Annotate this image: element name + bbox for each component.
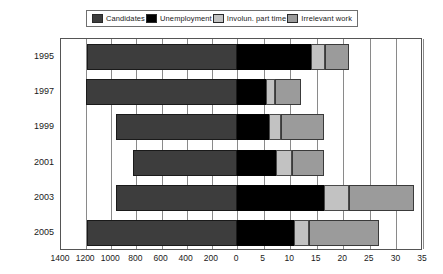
bar-segment-unemployment <box>237 114 269 140</box>
bar-segment-candidates <box>87 44 237 70</box>
legend-label-involun-part-time: Involun. part time <box>227 15 286 23</box>
bar-segment-candidates <box>86 79 237 105</box>
gridline-left-1200 <box>86 39 87 249</box>
bar-segment-involun <box>324 185 349 211</box>
legend-swatch-icon-irrelevant-work <box>287 14 298 23</box>
bar-segment-unemployment <box>237 185 324 211</box>
bar-segment-irrelevant <box>281 114 324 140</box>
gridline-right-5 <box>264 39 265 249</box>
bar-segment-irrelevant <box>349 185 414 211</box>
legend-item-involun-part-time: Involun. part time <box>213 14 286 23</box>
bar-segment-unemployment <box>237 150 276 176</box>
legend-item-unemployment: Unemployment <box>146 14 212 23</box>
bar-segment-irrelevant <box>309 220 380 246</box>
y-axis-label-1999: 1999 <box>14 121 54 131</box>
y-axis-label-2003: 2003 <box>14 192 54 202</box>
x-axis-label-35: 35 <box>405 253 439 263</box>
bar-segment-involun <box>276 150 292 176</box>
gridline-left-400 <box>187 39 188 249</box>
bar-row <box>61 44 421 70</box>
gridline-left-1000 <box>111 39 112 249</box>
gridline-left-0 <box>237 39 238 249</box>
bar-segment-unemployment <box>237 79 266 105</box>
gridline-right-25 <box>370 39 371 249</box>
y-axis-label-1995: 1995 <box>14 51 54 61</box>
legend-item-irrelevant-work: Irrelevant work <box>287 14 352 23</box>
legend-item-candidates: Candidates <box>92 14 145 23</box>
legend-swatch-icon-unemployment <box>146 14 157 23</box>
gridline-right-30 <box>396 39 397 249</box>
y-axis-label-2001: 2001 <box>14 157 54 167</box>
gridline-right-15 <box>317 39 318 249</box>
chart-container: Candidates Unemployment Involun. part ti… <box>0 0 443 274</box>
bar-segment-candidates <box>116 185 237 211</box>
gridline-right-20 <box>343 39 344 249</box>
y-axis-label-1997: 1997 <box>14 86 54 96</box>
bar-segment-involun <box>311 44 325 70</box>
gridline-left-600 <box>162 39 163 249</box>
bar-segment-candidates <box>133 150 237 176</box>
bar-segment-involun <box>269 114 281 140</box>
chart-legend: Candidates Unemployment Involun. part ti… <box>86 10 358 27</box>
bar-segment-unemployment <box>237 44 311 70</box>
legend-label-irrelevant-work: Irrelevant work <box>301 15 352 23</box>
y-axis-label-2005: 2005 <box>14 227 54 237</box>
legend-swatch-icon-involun-part-time <box>213 14 224 23</box>
bar-segment-irrelevant <box>292 150 324 176</box>
bar-segment-candidates <box>87 220 237 246</box>
gridline-right-35 <box>423 39 424 249</box>
legend-label-unemployment: Unemployment <box>160 15 212 23</box>
bar-segment-unemployment <box>237 220 294 246</box>
bar-segment-involun <box>266 79 275 105</box>
bar-segment-candidates <box>116 114 237 140</box>
gridline-right-10 <box>290 39 291 249</box>
legend-swatch-icon-candidates <box>92 14 103 23</box>
gridline-left-200 <box>212 39 213 249</box>
bar-row <box>61 185 421 211</box>
gridline-left-800 <box>136 39 137 249</box>
legend-label-candidates: Candidates <box>106 15 145 23</box>
bar-segment-involun <box>294 220 308 246</box>
bar-segment-irrelevant <box>275 79 301 105</box>
bar-row <box>61 220 421 246</box>
bar-row <box>61 114 421 140</box>
plot-area <box>60 38 422 250</box>
bar-row <box>61 79 421 105</box>
bar-row <box>61 150 421 176</box>
bar-segment-irrelevant <box>325 44 348 70</box>
